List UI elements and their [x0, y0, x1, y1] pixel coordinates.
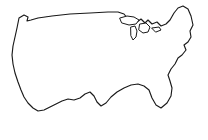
us-map-svg — [0, 0, 208, 140]
us-map-figure: United States outline map — [0, 0, 208, 140]
